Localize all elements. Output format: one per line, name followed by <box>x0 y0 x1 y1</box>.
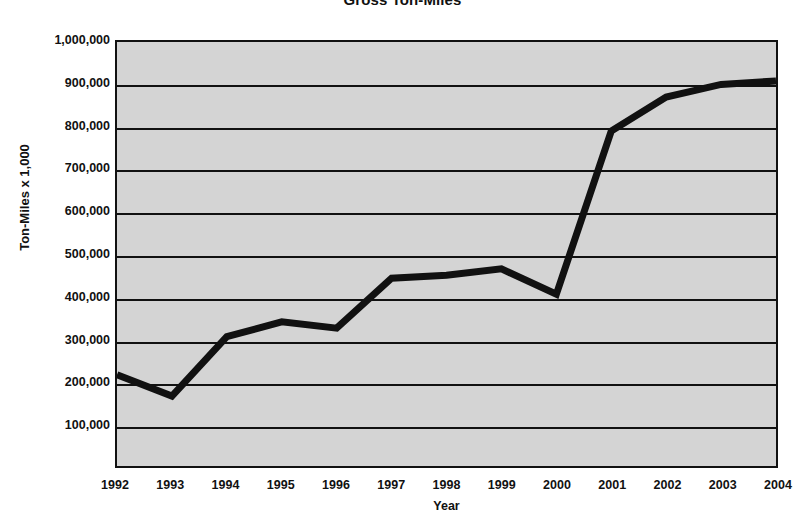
y-axis-tick-label: 300,000 <box>6 333 110 347</box>
x-axis-tick-label: 2004 <box>743 478 805 492</box>
y-axis-tick-label: 100,000 <box>6 418 110 432</box>
gridline <box>117 128 776 130</box>
y-axis-tick-label: 1,000,000 <box>6 33 110 47</box>
gridline <box>117 384 776 386</box>
gridline <box>117 213 776 215</box>
chart-title: Gross Ton-Miles <box>0 0 805 8</box>
x-axis-title: Year <box>115 499 778 513</box>
y-axis-tick-label: 200,000 <box>6 375 110 389</box>
y-axis-tick-label: 400,000 <box>6 290 110 304</box>
x-axis-tick-labels: 1992199319941995199619971998199920002001… <box>115 478 778 498</box>
gridline <box>117 256 776 258</box>
gridline <box>117 299 776 301</box>
gridline <box>117 170 776 172</box>
y-axis-tick-label: 900,000 <box>6 76 110 90</box>
y-axis-title: Ton-Miles x 1,000 <box>17 118 32 278</box>
plot-area <box>115 40 778 468</box>
gridline <box>117 427 776 429</box>
series-line-gross-ton-miles <box>117 42 776 466</box>
gridline <box>117 342 776 344</box>
gridline <box>117 85 776 87</box>
